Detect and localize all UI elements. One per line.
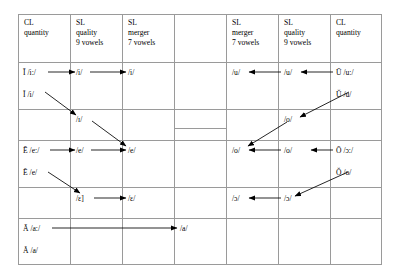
vowel-short-i-cl: Ĭ /i/ xyxy=(23,90,34,99)
grid-hline-top xyxy=(18,14,382,15)
header-sl-quality-left: SL quality 9 vowels xyxy=(76,18,120,47)
grid-hline-row4 xyxy=(18,187,382,188)
vowel-a-center: /a/ xyxy=(180,224,188,233)
header-cl-quantity-left: CL quantity xyxy=(24,18,68,38)
vowel-short-e-cl: Ĕ /e/ xyxy=(23,168,37,177)
arrow-eshort-to-epsilon xyxy=(48,172,80,193)
vowel-o-merger-right: /o/ xyxy=(232,146,240,155)
vowel-long-i-cl: Ī /iː/ xyxy=(23,68,36,77)
vowel-small-cap-i: /ɪ/ xyxy=(76,115,82,124)
vowel-e-merger-left: /e/ xyxy=(128,146,136,155)
vowel-u-merger-right: /u/ xyxy=(232,68,240,77)
vowel-short-o-cl: Ŏ /o/ xyxy=(336,168,351,177)
vowel-o-upper-quality: /o/ xyxy=(284,115,292,124)
grid-hline-row2 xyxy=(18,109,382,110)
arrow-oupper-to-omerger xyxy=(248,122,287,146)
vowel-long-e-cl: Ē /eː/ xyxy=(23,146,39,155)
grid-hline-row3 xyxy=(18,140,382,141)
header-sl-quality-right: SL quality 9 vowels xyxy=(284,18,328,47)
grid-hline-row5 xyxy=(18,218,382,219)
header-sl-merger-right: SL merger 7 vowels xyxy=(232,18,276,47)
vowel-long-o-cl: Ō /ɔː/ xyxy=(336,146,353,155)
vowel-e-quality-left: /e/ xyxy=(76,146,84,155)
vowel-development-diagram: CL quantity SL quality 9 vowels SL merge… xyxy=(0,0,396,279)
vowel-long-u-cl: Ū /uː/ xyxy=(336,68,354,77)
vowel-open-o-merger: /ɔ/ xyxy=(232,194,240,203)
vowel-o-quality-right: /o/ xyxy=(284,146,292,155)
arrow-smallcap-to-emerger xyxy=(92,121,126,146)
arrow-ishort-to-smallcap xyxy=(45,92,76,115)
vowel-i-quality-left: /i/ xyxy=(76,68,82,77)
vowel-short-u-cl: Ŭ /u/ xyxy=(336,90,351,99)
header-sl-merger-left: SL merger 7 vowels xyxy=(128,18,172,47)
vowel-epsilon-quality: /ɛ] xyxy=(76,194,84,203)
grid-hline-bottom xyxy=(18,264,382,265)
vowel-short-a-cl: Ă /a/ xyxy=(23,246,38,255)
header-cl-quantity-right: CL quantity xyxy=(336,18,380,38)
vowel-long-a-cl: Ā /aː/ xyxy=(23,224,40,233)
vowel-epsilon-merger: /ɛ/ xyxy=(128,194,135,203)
grid-hline-header xyxy=(18,62,382,63)
vowel-open-o-quality: /ɔ/ xyxy=(284,194,292,203)
grid-hline-center-offset xyxy=(174,128,226,129)
vowel-i-merger-left: /i/ xyxy=(128,68,134,77)
vowel-u-quality-right: /u/ xyxy=(284,68,292,77)
